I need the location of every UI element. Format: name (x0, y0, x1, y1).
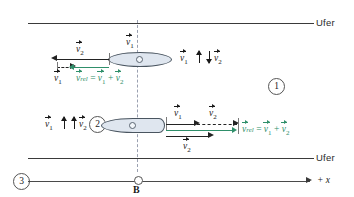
vector-arrowhead-v2-upper (51, 55, 57, 61)
vector-label-v2-upper: v2 (76, 45, 84, 57)
arrow-up-icon-a (61, 116, 68, 130)
orientation-label-v1-upper: v1 (180, 54, 188, 66)
x-axis-label: + x (317, 175, 330, 185)
x-axis-arrowhead (306, 177, 312, 183)
riverbank-bottom-line (28, 158, 314, 159)
vector-line-vrel-lower (166, 130, 234, 131)
vector-label-v2-lower: v2 (183, 142, 191, 154)
riverbank-top-line (28, 23, 314, 24)
vector-head-tick-lower (238, 118, 239, 134)
arrow-down-icon (206, 50, 213, 64)
equation-vrel-lower: vrel = v1 + v2 (242, 125, 289, 137)
parallel-arrows-icon (61, 116, 78, 130)
arrow-up-icon (196, 50, 203, 64)
x-axis-line (28, 181, 310, 182)
reference-point-label: B (133, 184, 140, 195)
vector-line-v2-dashed-lower (197, 124, 237, 125)
vector-arrowhead-vrel-lower (232, 127, 237, 133)
diagram-canvas: Ufer Ufer 1 2 3 v1 v2 v1 vrel = v1 + v2 … (0, 0, 354, 197)
equation-vrel-upper: vrel = v1 + v2 (76, 74, 123, 86)
boat-lower-porthole (129, 122, 136, 129)
vector-tail-tick-v2-upper (109, 53, 110, 65)
vector-line-vrel-upper (74, 67, 109, 68)
vector-label-v1-lower: v1 (174, 109, 182, 121)
orientation-label-v1-lower: v1 (45, 120, 53, 132)
antiparallel-arrows-icon (196, 50, 213, 64)
arrow-up-icon-b (71, 116, 78, 130)
orientation-label-v2-upper: v2 (214, 54, 222, 66)
vector-arrowhead-vrel-upper (69, 64, 74, 70)
vector-label-v1-dashed-upper: v1 (54, 74, 62, 86)
vector-arrowhead-v2-lower (208, 132, 214, 138)
vector-line-v2-upper (57, 59, 109, 60)
reference-line-vertical (137, 20, 138, 172)
vector-line-v1-lower (166, 124, 196, 125)
vector-label-v2-dashed-lower: v2 (209, 109, 217, 121)
frame-marker-1: 1 (268, 78, 285, 95)
orientation-label-v2-lower: v2 (79, 120, 87, 132)
vector-label-v1-upper: v1 (126, 38, 134, 50)
riverbank-bottom-label: Ufer (316, 152, 335, 163)
riverbank-top-label: Ufer (316, 17, 335, 28)
boat-upper-porthole (136, 56, 143, 63)
